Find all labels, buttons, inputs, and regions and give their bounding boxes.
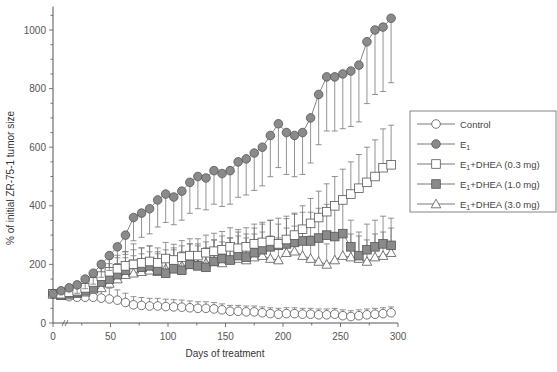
x-axis-label: Days of treatment — [186, 348, 265, 359]
legend-label: E1+DHEA (1.0 mg) — [460, 179, 540, 192]
x-tick-label: 0 — [50, 331, 56, 342]
legend-label: E1+DHEA (0.3 mg) — [460, 159, 540, 172]
y-tick-label: 800 — [29, 83, 46, 94]
legend-label: Control — [460, 119, 491, 130]
x-tick-label: 250 — [332, 331, 349, 342]
y-tick-label: 0 — [40, 318, 46, 329]
legend-marker — [432, 180, 441, 189]
y-tick-label: 1000 — [24, 25, 47, 36]
series-e1-dhea-0-3-mg- — [49, 125, 396, 298]
y-axis-label: % of initial ZR-75-1 tumor size — [5, 111, 16, 245]
y-tick-label: 200 — [29, 259, 46, 270]
legend-marker — [432, 120, 441, 129]
x-tick-label: 150 — [217, 331, 234, 342]
legend-marker — [432, 160, 441, 169]
x-tick-label: 50 — [105, 331, 117, 342]
x-tick-label: 300 — [390, 331, 407, 342]
tumor-growth-chart: 02004006008001000050100150200250300 Days… — [0, 0, 557, 372]
legend: ControlE1E1+DHEA (0.3 mg)E1+DHEA (1.0 mg… — [410, 111, 556, 212]
legend-label: E1+DHEA (3.0 mg) — [460, 199, 540, 212]
plot-area — [48, 14, 396, 321]
x-tick-label: 100 — [160, 331, 177, 342]
legend-marker — [432, 140, 441, 149]
x-tick-label: 200 — [275, 331, 292, 342]
y-tick-label: 600 — [29, 142, 46, 153]
y-tick-label: 400 — [29, 200, 46, 211]
